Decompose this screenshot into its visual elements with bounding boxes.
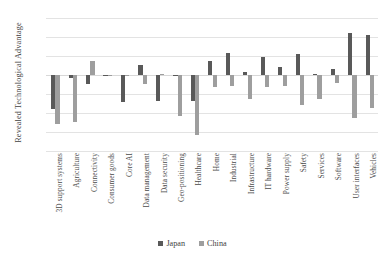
x-axis-label-cell: Data management bbox=[133, 153, 150, 231]
bar-china bbox=[352, 75, 356, 118]
x-axis-label-cell: Software bbox=[326, 153, 343, 231]
x-axis-tick-label: Core AI bbox=[125, 153, 134, 177]
x-axis-label-cell: Data security bbox=[151, 153, 168, 231]
bar-japan bbox=[156, 75, 160, 101]
chart-legend: JapanChina bbox=[0, 239, 385, 248]
x-axis-label-cell: Agriculture bbox=[63, 153, 80, 231]
x-axis-tick-label: 3D support systems bbox=[55, 153, 64, 212]
x-axis-tick-label: Data security bbox=[160, 153, 169, 193]
bar-group bbox=[360, 18, 377, 151]
x-axis-tick-label: Home bbox=[212, 153, 221, 171]
x-axis-label-cell: 3D support systems bbox=[46, 153, 63, 231]
bar-group bbox=[273, 18, 290, 151]
bar-japan bbox=[121, 75, 125, 102]
x-axis-tick-label: IT hardware bbox=[264, 153, 273, 190]
bar-group bbox=[98, 18, 115, 151]
bar-china bbox=[248, 75, 252, 99]
bar-group bbox=[133, 18, 150, 151]
y-axis-title: Revealed Technological Advantage bbox=[14, 3, 23, 163]
bar-china bbox=[265, 75, 269, 87]
legend-item[interactable]: China bbox=[199, 239, 227, 248]
x-axis-label-cell: Safety bbox=[291, 153, 308, 231]
bar-china bbox=[55, 75, 59, 124]
bar-japan bbox=[86, 75, 90, 84]
bar-group bbox=[326, 18, 343, 151]
legend-label: Japan bbox=[166, 239, 185, 248]
x-axis-label-cell: Geo-positioning bbox=[168, 153, 185, 231]
bar-group bbox=[46, 18, 63, 151]
legend-swatch-icon bbox=[199, 241, 204, 246]
bar-japan bbox=[348, 33, 352, 75]
legend-label: China bbox=[207, 239, 227, 248]
bar-china bbox=[213, 75, 217, 87]
legend-swatch-icon bbox=[158, 241, 163, 246]
bar-group bbox=[63, 18, 80, 151]
x-axis-tick-label: Data management bbox=[142, 153, 151, 207]
bar-japan bbox=[138, 65, 142, 75]
bar-japan bbox=[278, 67, 282, 75]
bar-japan bbox=[296, 54, 300, 75]
x-axis-label-cell: Core AI bbox=[116, 153, 133, 231]
bar-group bbox=[186, 18, 203, 151]
bar-japan bbox=[261, 57, 265, 75]
plot-area: 0.30.20.10.0-0.1-0.2-0.3-0.4 bbox=[46, 18, 378, 151]
bar-group bbox=[81, 18, 98, 151]
x-axis-tick-label: Power supply bbox=[282, 153, 291, 194]
x-axis-tick-label: Connectivity bbox=[90, 153, 99, 192]
x-axis-tick-label: Infrastructure bbox=[247, 153, 256, 194]
bar-group bbox=[151, 18, 168, 151]
x-axis-tick-label: Safety bbox=[299, 153, 308, 172]
x-axis-label-cell: Home bbox=[203, 153, 220, 231]
bar-china bbox=[178, 75, 182, 116]
bar-china bbox=[90, 61, 94, 75]
bar-group bbox=[291, 18, 308, 151]
bar-china bbox=[160, 74, 164, 75]
x-axis-tick-label: Healthcare bbox=[194, 153, 203, 186]
bar-group bbox=[168, 18, 185, 151]
gridline bbox=[46, 151, 378, 152]
bar-japan bbox=[366, 35, 370, 75]
bar-china bbox=[108, 75, 112, 76]
bar-group bbox=[221, 18, 238, 151]
x-axis-label-cell: Infrastructure bbox=[238, 153, 255, 231]
bar-china bbox=[125, 75, 129, 76]
x-axis-label-cell: Services bbox=[308, 153, 325, 231]
bar-china bbox=[317, 75, 321, 99]
x-axis-label-cell: Healthcare bbox=[186, 153, 203, 231]
x-axis-label-cell: Industrial bbox=[221, 153, 238, 231]
bar-china bbox=[300, 75, 304, 105]
legend-item[interactable]: Japan bbox=[158, 239, 185, 248]
x-axis-label-cell: Vehicles bbox=[360, 153, 377, 231]
x-axis-tick-label: Services bbox=[317, 153, 326, 179]
bar-group bbox=[308, 18, 325, 151]
bar-group bbox=[238, 18, 255, 151]
bar-china bbox=[73, 75, 77, 122]
x-axis-tick-label: Vehicles bbox=[369, 153, 378, 179]
x-axis-tick-label: Software bbox=[334, 153, 343, 180]
x-axis-tick-label: Agriculture bbox=[72, 153, 81, 188]
x-axis-label-cell: User interfaces bbox=[343, 153, 360, 231]
bar-group bbox=[343, 18, 360, 151]
chart-container: Revealed Technological Advantage 0.30.20… bbox=[0, 0, 385, 261]
bar-group bbox=[116, 18, 133, 151]
bar-japan bbox=[208, 61, 212, 75]
bar-groups bbox=[46, 18, 378, 151]
x-axis-tick-label: Geo-positioning bbox=[177, 153, 186, 202]
x-axis-label-cell: Connectivity bbox=[81, 153, 98, 231]
bar-china bbox=[143, 75, 147, 84]
bar-china bbox=[283, 75, 287, 86]
x-axis-label-cell: Power supply bbox=[273, 153, 290, 231]
bar-china bbox=[335, 75, 339, 83]
bar-japan bbox=[226, 53, 230, 75]
x-axis-label-cell: Consumer goods bbox=[98, 153, 115, 231]
bar-china bbox=[230, 75, 234, 86]
bar-group bbox=[256, 18, 273, 151]
x-axis-label-cell: IT hardware bbox=[256, 153, 273, 231]
x-axis-tick-label: Consumer goods bbox=[107, 153, 116, 204]
x-axis-tick-label: User interfaces bbox=[352, 153, 361, 198]
x-axis-tick-label: Industrial bbox=[229, 153, 238, 182]
bar-china bbox=[370, 75, 374, 108]
bar-group bbox=[203, 18, 220, 151]
x-axis-labels: 3D support systemsAgricultureConnectivit… bbox=[46, 153, 378, 231]
bar-china bbox=[195, 75, 199, 135]
